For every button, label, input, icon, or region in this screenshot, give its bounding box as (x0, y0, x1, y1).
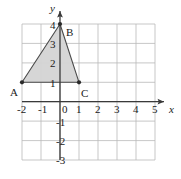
x-tick-label-2: 2 (95, 104, 101, 115)
x-tick-label-1: 1 (76, 104, 82, 115)
point-C (77, 80, 81, 84)
y-tick-label-4: 4 (50, 20, 56, 31)
y-axis-label: y (50, 3, 55, 14)
point-B (58, 22, 62, 26)
vertex-label-A: A (10, 87, 18, 98)
vertex-label-B: B (66, 27, 73, 38)
x-tick-label-3: 3 (114, 104, 120, 115)
y-tick-label-neg1: -1 (56, 117, 65, 128)
coordinate-plane-figure: y x 0 -2 -1 1 2 3 4 5 4 3 2 1 -1 -2 -3 A… (0, 0, 181, 179)
y-tick-label-neg2: -2 (56, 136, 65, 147)
grid-vertical-lines (22, 24, 155, 160)
x-axis-label: x (169, 104, 174, 115)
x-tick-label-neg1: -1 (38, 104, 47, 115)
x-tick-label-neg2: -2 (17, 104, 26, 115)
point-A (20, 80, 24, 84)
plot-svg (0, 0, 181, 179)
grid-horizontal-lines (22, 24, 155, 160)
y-tick-label-3: 3 (50, 39, 56, 50)
x-tick-label-5: 5 (152, 104, 158, 115)
y-tick-label-2: 2 (50, 58, 56, 69)
x-tick-label-4: 4 (133, 104, 139, 115)
origin-tick-label: 0 (62, 104, 68, 115)
y-tick-label-neg3: -3 (56, 155, 65, 166)
vertex-label-C: C (81, 88, 88, 99)
y-tick-label-1: 1 (50, 78, 56, 89)
